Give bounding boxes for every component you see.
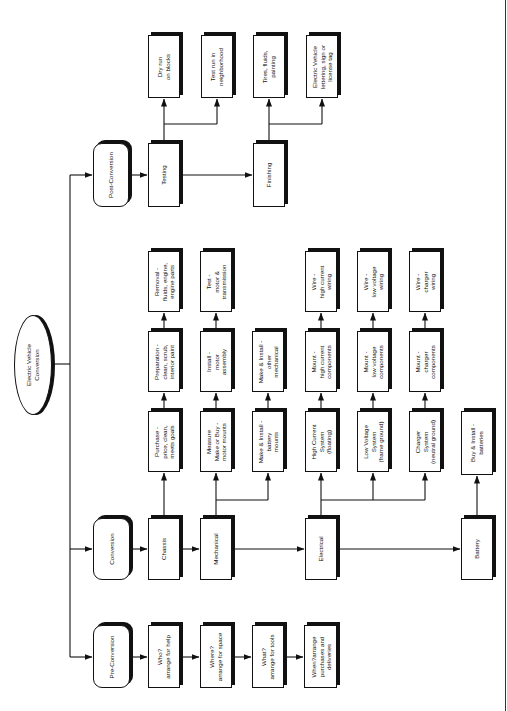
- node-when: When?arrange purchases and deliveries: [304, 625, 337, 688]
- node-ev-lettering: Electric Vehicle lettering, sign or lice…: [306, 35, 338, 98]
- node-label: Wire - low voltage wiring: [362, 266, 385, 297]
- node-other-mechanical: Make & Install - other mechanical: [252, 331, 284, 392]
- node-test-run: Test run in neighborhood: [201, 35, 233, 98]
- node-buy-install-batteries: Buy & Install - batteries: [461, 411, 493, 475]
- node-mount-low-voltage: Mount - low voltage components: [357, 331, 389, 392]
- node-mount-high-current: Mount - high current components: [305, 331, 337, 392]
- node-conversion: Conversion: [93, 518, 130, 580]
- root-node-label: Electric Vehicle Conversion: [25, 344, 40, 386]
- node-label: Install - motor assembly: [205, 348, 228, 374]
- node-label: Tires, fluids, painting: [261, 50, 276, 83]
- node-removal: Removal - fluids, engine, engine parts: [148, 251, 180, 312]
- node-label: Electric Vehicle lettering, sign or lice…: [311, 44, 334, 88]
- node-high-current-system: High Current System (floating): [305, 411, 337, 472]
- node-label: Chassis: [160, 538, 168, 560]
- node-mount-charger: Mount - charger components: [409, 331, 441, 392]
- node-label: Low Voltage System (frame ground): [362, 421, 385, 462]
- node-label: Testing: [160, 165, 168, 185]
- node-label: High Current System (floating): [310, 424, 333, 459]
- node-label: Mount - charger components: [414, 345, 437, 379]
- node-label: Mount - low voltage components: [362, 345, 385, 379]
- node-label: Wire - charger wiring: [414, 271, 437, 292]
- node-label: Preparation - clean, scrub, interior pai…: [153, 344, 176, 380]
- node-chassis: Chassis: [148, 518, 180, 580]
- node-label: Electrical: [317, 536, 325, 561]
- node-low-voltage-system: Low Voltage System (frame ground): [357, 411, 389, 472]
- node-label: Buy & Install - batteries: [469, 424, 484, 462]
- node-label: Battery: [473, 539, 481, 559]
- node-tires-fluids-painting: Tires, fluids, painting: [253, 35, 285, 98]
- node-preparation: Preparation - clean, scrub, interior pai…: [148, 331, 180, 392]
- node-install-motor: Install - motor assembly: [200, 331, 232, 392]
- node-battery-mounts: Make & Install - battery mounts: [252, 411, 284, 472]
- node-label: Wire - high current wiring: [310, 265, 333, 298]
- node-pre-conversion: Pre-Conversion: [93, 625, 130, 688]
- node-label: Dry run on blocks: [156, 53, 171, 79]
- node-testing: Testing: [148, 143, 180, 207]
- node-label: Measure Make or Buy - motor mounts: [205, 422, 228, 461]
- node-label: Post-Conversion: [107, 152, 115, 198]
- node-wire-charger: Wire - charger wiring: [409, 251, 441, 312]
- node-label: What? arrange for tools: [260, 634, 275, 679]
- node-mechanical: Mechanical: [200, 518, 232, 580]
- node-label: Where? arrange for space: [208, 632, 223, 681]
- node-test-motor: Test - motor & transmission: [200, 251, 232, 312]
- node-measure-motor-mounts: Measure Make or Buy - motor mounts: [200, 411, 232, 472]
- node-battery: Battery: [461, 518, 493, 580]
- node-label: Pre-Conversion: [108, 635, 116, 678]
- node-who: Who? arrange for help: [148, 625, 180, 688]
- node-label: Make & Install - other mechanical: [257, 340, 280, 383]
- node-wire-high-current: Wire - high current wiring: [305, 251, 337, 312]
- node-label: Charger System (neutral ground): [414, 419, 437, 463]
- node-label: Removal - fluids, engine, engine parts: [153, 262, 176, 300]
- node-wire-low-voltage: Wire - low voltage wiring: [357, 251, 389, 312]
- node-charger-system: Charger System (neutral ground): [409, 411, 441, 472]
- node-label: Mechanical: [212, 533, 220, 564]
- node-dry-run: Dry run on blocks: [148, 35, 180, 98]
- node-label: Test run in neighborhood: [209, 48, 224, 86]
- node-what: What? arrange for tools: [252, 625, 284, 688]
- node-electrical: Electrical: [305, 518, 337, 580]
- root-node-ellipse: Electric Vehicle Conversion: [14, 315, 52, 415]
- node-purchase: Purchase - price, clean, meets goals: [148, 411, 180, 472]
- node-label: Conversion: [108, 533, 116, 564]
- node-label: Test - motor & transmission: [205, 264, 228, 299]
- node-label: Make & Install - battery mounts: [257, 420, 280, 463]
- node-label: Finishing: [265, 163, 273, 188]
- node-label: When?arrange purchases and deliveries: [309, 636, 332, 677]
- node-label: Who? arrange for help: [156, 635, 171, 679]
- node-post-conversion: Post-Conversion: [93, 143, 129, 207]
- node-label: Mount - high current components: [310, 345, 333, 379]
- page-edge-line: [505, 0, 506, 711]
- node-label: Purchase - price, clean, meets goals: [153, 425, 176, 458]
- node-where: Where? arrange for space: [200, 625, 232, 688]
- diagram-canvas: Electric Vehicle Conversion Post-Convers…: [0, 0, 507, 711]
- node-finishing: Finishing: [253, 143, 285, 207]
